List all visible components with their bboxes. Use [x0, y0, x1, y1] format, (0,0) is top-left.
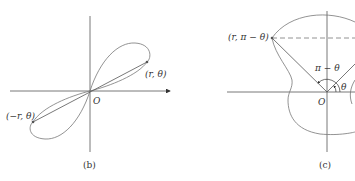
c-angle-label-small: θ: [341, 82, 347, 92]
figure-c: (r, π − θ) π − θ θ O (c): [227, 11, 355, 170]
c-angle-label-large: π − θ: [314, 63, 340, 73]
diagram-canvas: (r, θ) (−r, θ) O (b) (r, π − θ) π − θ θ …: [0, 0, 355, 181]
b-point-neg-r-theta: [32, 121, 35, 124]
c-origin-label: O: [318, 97, 326, 107]
b-point-r-theta: [146, 61, 149, 64]
b-lobe-upper: [90, 43, 150, 91]
b-label-r-theta: (r, θ): [145, 69, 167, 79]
b-label-neg-r-theta: (−r, θ): [6, 111, 36, 121]
c-caption: (c): [319, 160, 331, 170]
c-curve: [272, 15, 355, 135]
b-origin-label: O: [93, 96, 101, 106]
c-point-label: (r, π − θ): [228, 32, 269, 42]
figure-b: (r, θ) (−r, θ) O (b): [6, 16, 170, 170]
c-point: [271, 37, 274, 40]
b-caption: (b): [83, 160, 96, 170]
c-angle-arc-small: [334, 86, 336, 92]
b-lobe-lower: [30, 91, 90, 139]
